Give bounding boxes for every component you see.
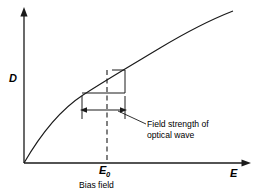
- y-axis-arrowhead: [20, 7, 27, 17]
- bias-field-tick-label: E 0: [99, 164, 111, 179]
- saturation-curve: [24, 11, 233, 163]
- annotation-line-1: Field strength of: [147, 119, 209, 129]
- x-axis-label: E: [230, 167, 238, 179]
- span-arrowhead-left: [80, 107, 87, 113]
- bias-field-tick-subscript: 0: [106, 170, 111, 179]
- annotation-line-2: optical wave: [147, 130, 195, 140]
- y-axis-label: D: [9, 72, 17, 84]
- x-axis-arrowhead: [242, 159, 252, 166]
- x-axis: [24, 159, 251, 166]
- bias-field-caption: Bias field: [79, 180, 114, 190]
- dielectric-response-chart: D E E 0 Bias field Field strength of opt…: [0, 0, 271, 194]
- figure-container: D E E 0 Bias field Field strength of opt…: [0, 0, 271, 194]
- y-axis: [20, 7, 27, 163]
- annotation-leader-line: [118, 111, 146, 124]
